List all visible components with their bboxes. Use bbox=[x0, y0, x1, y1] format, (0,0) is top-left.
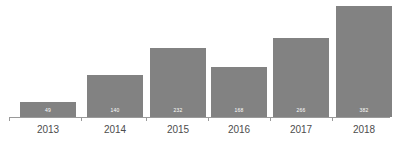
bar-value-label: 140 bbox=[111, 108, 120, 117]
bar-value-label: 382 bbox=[360, 108, 369, 117]
axis-tick bbox=[81, 117, 82, 121]
bar-group-2014[interactable]: 140 bbox=[87, 0, 143, 117]
bar-2018[interactable]: 382 bbox=[336, 6, 392, 117]
bar-group-2016[interactable]: 168 bbox=[211, 0, 267, 117]
axis-tick bbox=[208, 117, 209, 121]
bar-value-label: 266 bbox=[297, 108, 306, 117]
bar-chart: 49 140 232 168 266 382 bbox=[0, 0, 403, 145]
bar-group-2015[interactable]: 232 bbox=[150, 0, 206, 117]
plot-area: 49 140 232 168 266 382 bbox=[0, 0, 403, 117]
bar-group-2018[interactable]: 382 bbox=[336, 0, 392, 117]
x-axis-label-2014: 2014 bbox=[87, 123, 143, 137]
bar-2016[interactable]: 168 bbox=[211, 67, 267, 117]
x-axis-label-2015: 2015 bbox=[150, 123, 206, 137]
axis-tick bbox=[146, 117, 147, 121]
axis-tick bbox=[332, 117, 333, 121]
bar-2013[interactable]: 49 bbox=[20, 102, 76, 117]
bar-group-2017[interactable]: 266 bbox=[273, 0, 329, 117]
x-axis-labels: 2013 2014 2015 2016 2017 2018 bbox=[0, 123, 403, 139]
axis-tick bbox=[9, 117, 10, 121]
bar-2015[interactable]: 232 bbox=[150, 48, 206, 117]
bar-value-label: 168 bbox=[235, 108, 244, 117]
bar-2014[interactable]: 140 bbox=[87, 75, 143, 117]
x-axis-label-2018: 2018 bbox=[336, 123, 392, 137]
x-axis-label-2013: 2013 bbox=[20, 123, 76, 137]
bar-2017[interactable]: 266 bbox=[273, 38, 329, 117]
axis-tick bbox=[270, 117, 271, 121]
bar-value-label: 232 bbox=[174, 108, 183, 117]
x-axis-label-2017: 2017 bbox=[273, 123, 329, 137]
bar-value-label: 49 bbox=[45, 108, 51, 117]
x-axis-label-2016: 2016 bbox=[211, 123, 267, 137]
bar-group-2013[interactable]: 49 bbox=[20, 0, 76, 117]
